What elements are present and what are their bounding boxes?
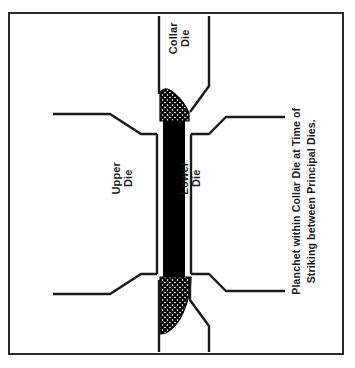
figure-caption-line1: Planchet within Collar Die at Time of [289,95,304,307]
label-lower-die-line2: Die [190,170,202,187]
figure-caption-line2: Striking between Principal Dies. [304,95,319,307]
label-collar-die: Collar Die [167,6,192,70]
label-upper-die-line1: Upper [110,162,122,194]
lower-hatched-metal-flow [160,277,191,334]
figure-page: Collar Die Upper Die Lower Die Planchet … [0,0,355,368]
label-upper-die: Upper Die [110,146,135,210]
upper-hatched-metal-flow [160,89,189,121]
label-lower-die-line1: Lower [178,162,190,195]
label-collar-die-line1: Collar [167,22,179,54]
figure-caption: Planchet within Collar Die at Time of St… [289,95,319,307]
upper-die-body [53,114,157,294]
label-lower-die: Lower Die [178,146,203,210]
label-collar-die-line2: Die [179,30,191,47]
label-upper-die-line2: Die [122,170,134,187]
